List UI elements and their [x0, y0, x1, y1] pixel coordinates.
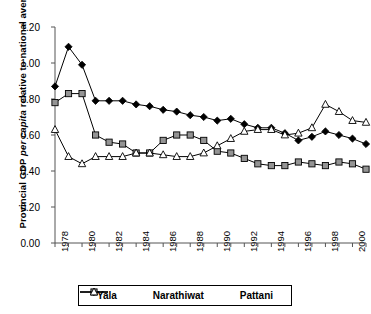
legend-label: Narathiwat	[153, 290, 204, 301]
data-marker-narathiwat	[295, 159, 301, 165]
data-marker-yala	[105, 97, 112, 104]
data-marker-narathiwat	[309, 161, 315, 167]
data-marker-narathiwat	[160, 137, 166, 143]
legend-marker-open-triangle	[79, 286, 109, 298]
data-marker-pattani	[78, 160, 85, 167]
data-marker-narathiwat	[282, 163, 288, 169]
chart-figure: Provincial GDP per capita relative to na…	[0, 0, 371, 314]
series-line	[55, 47, 366, 144]
data-marker-narathiwat	[187, 132, 193, 138]
data-marker-yala	[78, 61, 85, 68]
data-marker-narathiwat	[174, 132, 180, 138]
data-marker-narathiwat	[92, 132, 98, 138]
data-marker-pattani	[65, 153, 72, 160]
data-marker-pattani	[227, 135, 234, 142]
data-marker-narathiwat	[106, 139, 112, 145]
plot-area	[0, 0, 371, 314]
data-marker-pattani	[322, 100, 329, 107]
data-marker-pattani	[92, 153, 99, 160]
data-marker-narathiwat	[79, 91, 85, 97]
data-marker-narathiwat	[201, 137, 207, 143]
data-marker-yala	[308, 133, 315, 140]
data-marker-pattani	[214, 142, 221, 149]
series-yala	[51, 43, 369, 147]
data-marker-narathiwat	[322, 163, 328, 169]
data-marker-yala	[200, 113, 207, 120]
data-marker-pattani	[335, 108, 342, 115]
data-marker-narathiwat	[228, 150, 234, 156]
data-marker-pattani	[200, 149, 207, 156]
data-marker-yala	[349, 135, 356, 142]
data-marker-yala	[173, 108, 180, 115]
data-marker-narathiwat	[336, 159, 342, 165]
data-marker-narathiwat	[120, 141, 126, 147]
data-marker-narathiwat	[65, 91, 71, 97]
data-marker-yala	[160, 106, 167, 113]
data-marker-yala	[322, 128, 329, 135]
data-marker-yala	[133, 101, 140, 108]
series-line	[55, 94, 366, 170]
data-marker-yala	[295, 137, 302, 144]
data-marker-narathiwat	[349, 161, 355, 167]
data-marker-yala	[362, 140, 369, 147]
data-marker-narathiwat	[255, 161, 261, 167]
legend-item-pattani[interactable]: Pattani	[240, 290, 273, 301]
data-marker-narathiwat	[52, 100, 58, 106]
data-marker-yala	[92, 97, 99, 104]
data-marker-yala	[65, 43, 72, 50]
data-marker-pattani	[308, 124, 315, 131]
data-marker-pattani	[90, 288, 97, 295]
data-marker-yala	[335, 131, 342, 138]
data-marker-yala	[146, 103, 153, 110]
legend-label: Pattani	[240, 290, 273, 301]
data-marker-narathiwat	[268, 163, 274, 169]
data-marker-narathiwat	[241, 155, 247, 161]
data-marker-pattani	[51, 126, 58, 133]
data-marker-yala	[119, 97, 126, 104]
data-marker-narathiwat	[363, 166, 369, 172]
data-marker-yala	[214, 117, 221, 124]
legend-item-narathiwat[interactable]: Narathiwat	[153, 290, 204, 301]
data-marker-pattani	[105, 153, 112, 160]
data-marker-yala	[187, 112, 194, 119]
chart-legend: YalaNarathiwatPattani	[78, 285, 292, 306]
data-marker-yala	[227, 115, 234, 122]
data-marker-yala	[51, 83, 58, 90]
data-marker-pattani	[349, 117, 356, 124]
